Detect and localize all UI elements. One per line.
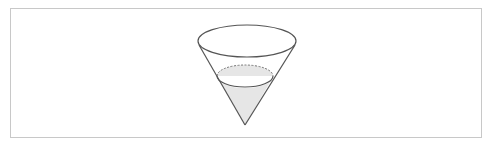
liquid-surface-back — [217, 65, 273, 76]
cone-diagram — [0, 0, 490, 146]
cone-rim — [198, 25, 296, 57]
